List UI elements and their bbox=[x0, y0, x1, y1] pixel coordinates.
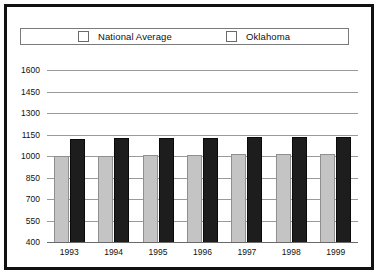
x-axis-tick-label: 1997 bbox=[237, 247, 256, 257]
legend-label-oklahoma: Oklahoma bbox=[246, 31, 290, 42]
bar-oklahoma bbox=[247, 137, 262, 242]
x-axis-tick-label: 1996 bbox=[193, 247, 212, 257]
legend-label-national-average: National Average bbox=[98, 31, 172, 42]
bar-group: 1996 bbox=[180, 70, 224, 242]
bar-national-average bbox=[143, 155, 158, 242]
bar-national-average bbox=[276, 154, 291, 242]
y-axis-tick-label: 1300 bbox=[21, 108, 40, 118]
bar-national-average bbox=[187, 155, 202, 242]
bar-oklahoma bbox=[159, 138, 174, 242]
bar-group: 1995 bbox=[136, 70, 180, 242]
legend-swatch-oklahoma bbox=[226, 31, 237, 42]
y-axis-tick-label: 1450 bbox=[21, 87, 40, 97]
bar-oklahoma bbox=[70, 139, 85, 242]
y-axis-tick-label: 700 bbox=[26, 194, 40, 204]
bar-national-average bbox=[98, 156, 113, 242]
bar-national-average bbox=[54, 156, 69, 242]
x-axis-tick-label: 1999 bbox=[326, 247, 345, 257]
legend-item-national-average: National Average bbox=[78, 31, 172, 42]
bar-oklahoma bbox=[336, 137, 351, 242]
bar-oklahoma bbox=[292, 137, 307, 242]
bar-national-average bbox=[320, 154, 335, 242]
legend-swatch-national-average bbox=[78, 31, 89, 42]
bar-group: 1997 bbox=[225, 70, 269, 242]
gridline-400: 400 bbox=[47, 242, 358, 243]
y-axis-tick-label: 1150 bbox=[22, 130, 40, 140]
x-axis-tick-label: 1994 bbox=[104, 247, 123, 257]
x-axis-tick-label: 1998 bbox=[282, 247, 301, 257]
bar-group: 1998 bbox=[269, 70, 313, 242]
y-axis-tick-label: 1000 bbox=[21, 151, 40, 161]
y-axis-tick-label: 550 bbox=[26, 216, 40, 226]
x-axis-tick-label: 1993 bbox=[60, 247, 79, 257]
x-axis-tick-label: 1995 bbox=[149, 247, 168, 257]
bar-oklahoma bbox=[203, 138, 218, 242]
bar-oklahoma bbox=[114, 138, 129, 242]
bar-national-average bbox=[231, 154, 246, 242]
bar-group: 1999 bbox=[314, 70, 358, 242]
y-axis-tick-label: 1600 bbox=[21, 65, 40, 75]
chart-screenshot: National Average Oklahoma 16001450130011… bbox=[0, 0, 382, 276]
bar-groups: 1993199419951996199719981999 bbox=[47, 70, 358, 242]
legend-item-oklahoma: Oklahoma bbox=[226, 31, 290, 42]
y-axis-tick-label: 850 bbox=[26, 173, 40, 183]
y-axis-tick-label: 400 bbox=[26, 237, 40, 247]
chart-legend: National Average Oklahoma bbox=[20, 28, 349, 45]
plot-area: 16001450130011501000850700550400 1993199… bbox=[47, 70, 358, 242]
bar-group: 1994 bbox=[91, 70, 135, 242]
bar-group: 1993 bbox=[47, 70, 91, 242]
